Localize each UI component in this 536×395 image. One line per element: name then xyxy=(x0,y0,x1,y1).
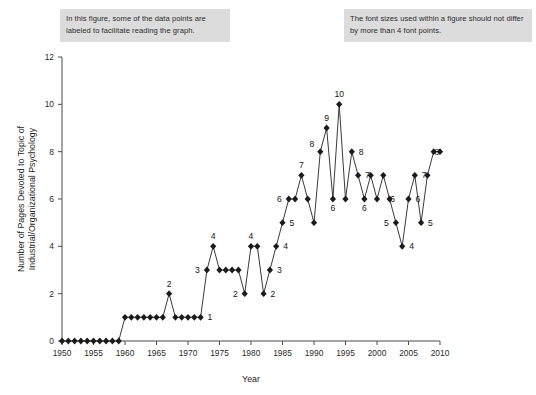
x-tick-label: 1955 xyxy=(84,348,103,358)
data-point-marker xyxy=(78,338,84,345)
data-point-label: 8 xyxy=(310,139,315,149)
data-point-marker xyxy=(59,338,65,345)
data-point-label: 10 xyxy=(334,89,344,99)
data-point-marker xyxy=(267,267,273,274)
data-point-marker xyxy=(198,314,204,321)
y-tick-labels: 024681012 xyxy=(45,52,55,346)
data-point-label: 4 xyxy=(211,231,216,241)
data-point-marker xyxy=(72,338,78,345)
data-point-marker xyxy=(204,267,210,274)
data-point-label: 6 xyxy=(277,194,282,204)
data-point-marker xyxy=(185,314,191,321)
data-point-marker xyxy=(279,219,285,226)
data-point-marker xyxy=(84,338,90,345)
data-point-label: 5 xyxy=(290,218,295,228)
x-tick-label: 1985 xyxy=(273,348,292,358)
data-point-marker xyxy=(116,338,122,345)
data-point-marker xyxy=(405,196,411,203)
data-point-label: 2 xyxy=(233,289,238,299)
x-tick-labels: 1950195519601965197019751980198519901995… xyxy=(53,348,450,358)
y-tick-label: 12 xyxy=(45,52,55,62)
axis-spines xyxy=(62,57,440,341)
data-point-label: 4 xyxy=(409,241,414,251)
data-point-marker xyxy=(254,243,260,250)
data-point-marker xyxy=(349,148,355,155)
x-tick-label: 1960 xyxy=(116,348,135,358)
data-point-marker xyxy=(393,219,399,226)
data-point-marker xyxy=(235,267,241,274)
x-tick-label: 1995 xyxy=(336,348,355,358)
data-point-label: 2 xyxy=(167,279,172,289)
data-point-label: 8 xyxy=(434,147,439,157)
data-point-marker xyxy=(191,314,197,321)
chart-axes xyxy=(58,57,440,345)
x-tick-label: 2010 xyxy=(431,348,450,358)
data-point-label: 3 xyxy=(195,265,200,275)
x-tick-label: 2000 xyxy=(368,348,387,358)
data-point-label: 6 xyxy=(390,194,395,204)
y-tick-label: 4 xyxy=(49,241,54,251)
data-point-marker xyxy=(229,267,235,274)
data-point-label: 1 xyxy=(208,312,213,322)
data-point-marker xyxy=(122,314,128,321)
data-point-marker xyxy=(286,196,292,203)
y-tick-label: 6 xyxy=(49,194,54,204)
data-point-label: 8 xyxy=(359,147,364,157)
data-point-marker xyxy=(305,196,311,203)
data-point-marker xyxy=(317,148,323,155)
data-point-marker xyxy=(298,172,304,179)
y-tick-label: 10 xyxy=(45,99,55,109)
data-point-marker xyxy=(147,314,153,321)
data-point-marker xyxy=(210,243,216,250)
data-point-marker xyxy=(166,290,172,297)
data-point-marker xyxy=(399,243,405,250)
chart-svg: 024681012 195019551960196519701975198019… xyxy=(0,0,536,395)
x-tick-label: 1950 xyxy=(53,348,72,358)
data-point-marker xyxy=(374,196,380,203)
data-point-label: 7 xyxy=(422,170,427,180)
data-point-marker xyxy=(135,314,141,321)
data-point-label: 5 xyxy=(384,218,389,228)
data-point-label: 4 xyxy=(283,241,288,251)
data-point-marker xyxy=(103,338,109,345)
figure-root: In this figure, some of the data points … xyxy=(0,0,536,395)
y-tick-label: 2 xyxy=(49,289,54,299)
data-point-marker xyxy=(418,219,424,226)
data-point-marker xyxy=(273,243,279,250)
data-point-label: 2 xyxy=(271,289,276,299)
data-point-label: 5 xyxy=(428,218,433,228)
data-point-label: 9 xyxy=(324,113,329,123)
data-point-marker xyxy=(355,172,361,179)
data-point-labels: 234124234567891068766546758 xyxy=(167,89,440,322)
data-point-marker xyxy=(97,338,103,345)
y-tick-label: 8 xyxy=(49,147,54,157)
data-point-marker xyxy=(216,267,222,274)
y-axis-title: Number of Pages Devoted to Topic ofIndus… xyxy=(16,125,37,272)
x-tick-label: 1975 xyxy=(210,348,229,358)
data-point-label: 6 xyxy=(331,203,336,213)
x-tick-label: 1965 xyxy=(147,348,166,358)
data-point-marker xyxy=(90,338,96,345)
data-point-label: 6 xyxy=(416,194,421,204)
data-point-marker xyxy=(380,172,386,179)
line-chart: 024681012 195019551960196519701975198019… xyxy=(0,0,536,395)
data-point-marker xyxy=(342,196,348,203)
data-point-marker xyxy=(153,314,159,321)
data-point-marker xyxy=(248,243,254,250)
data-point-marker xyxy=(292,196,298,203)
data-point-label: 4 xyxy=(249,231,254,241)
data-point-label: 7 xyxy=(365,170,370,180)
data-point-marker xyxy=(330,196,336,203)
data-point-label: 7 xyxy=(299,160,304,170)
data-point-marker xyxy=(128,314,134,321)
data-point-marker xyxy=(223,267,229,274)
data-point-marker xyxy=(179,314,185,321)
data-point-marker xyxy=(172,314,178,321)
data-point-marker xyxy=(242,290,248,297)
x-tick-label: 1980 xyxy=(242,348,261,358)
data-point-label: 6 xyxy=(362,203,367,213)
data-point-marker xyxy=(261,290,267,297)
y-axis-title-line: Number of Pages Devoted to Topic of xyxy=(16,125,26,272)
data-point-label: 3 xyxy=(277,265,282,275)
x-tick-label: 1970 xyxy=(179,348,198,358)
